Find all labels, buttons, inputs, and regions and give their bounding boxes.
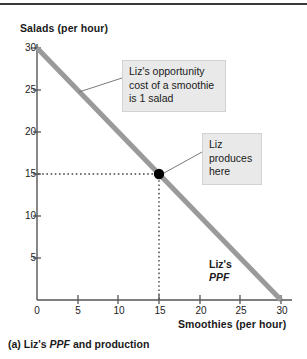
- x-tick-label: 20: [190, 305, 212, 316]
- annotation-produces-here: Liz produces here: [202, 133, 262, 185]
- annotation-opportunity-cost: Liz's opportunity cost of a smoothie is …: [122, 60, 226, 112]
- y-tick-label: 15: [14, 168, 36, 179]
- x-axis-title: Smoothies (per hour): [178, 318, 286, 330]
- x-tick-label: 5: [67, 305, 89, 316]
- y-axis-ticks: [31, 48, 41, 258]
- ppf-curve-label-name: PPF: [209, 271, 229, 283]
- y-tick-label: 20: [14, 126, 36, 137]
- ppf-figure: Salads (per hour): [0, 0, 307, 359]
- caption-prefix: (a) Liz's: [8, 338, 50, 350]
- caption-suffix: and production: [70, 338, 149, 350]
- y-tick-label: 10: [14, 210, 36, 221]
- ppf-curve-label: Liz's PPF: [209, 258, 232, 284]
- caption-emphasis: PPF: [50, 338, 70, 350]
- production-point-marker: [154, 169, 164, 179]
- y-tick-label: 25: [14, 84, 36, 95]
- y-tick-label: 5: [14, 252, 36, 263]
- ppf-curve-label-owner: Liz's: [209, 258, 232, 270]
- x-tick-label-origin: 0: [26, 305, 48, 316]
- leader-line-opportunity-cost: [79, 78, 122, 92]
- x-tick-label: 25: [230, 305, 252, 316]
- leader-line-produces-here: [164, 152, 202, 173]
- x-tick-label: 15: [149, 305, 171, 316]
- y-tick-label: 30: [14, 42, 36, 53]
- x-tick-label: 10: [108, 305, 130, 316]
- x-tick-label: 30: [271, 305, 293, 316]
- figure-caption: (a) Liz's PPF and production: [8, 338, 149, 350]
